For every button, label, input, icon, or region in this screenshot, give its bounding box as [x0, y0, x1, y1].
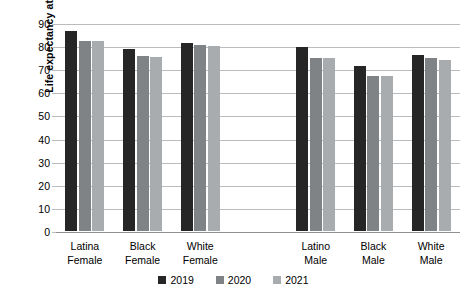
- x-axis-label-line: White: [402, 240, 460, 254]
- y-tick-mark-20: [52, 186, 56, 187]
- y-tick-label-90: 90: [38, 18, 50, 30]
- bar-2021-latino-male[interactable]: [323, 58, 335, 231]
- bar-group: [354, 24, 393, 232]
- gridline-90: [56, 24, 460, 25]
- gridline-40: [56, 140, 460, 141]
- bar-group: [123, 24, 162, 232]
- gridline-60: [56, 93, 460, 94]
- x-axis-label-line: Female: [56, 254, 114, 268]
- bar-2021-white-male[interactable]: [439, 60, 451, 231]
- bar-group: [412, 24, 451, 232]
- y-tick-mark-30: [52, 163, 56, 164]
- bar-2020-black-male[interactable]: [367, 76, 379, 231]
- legend-item-2020[interactable]: 2020: [216, 275, 251, 285]
- x-axis-label-line: Male: [345, 254, 403, 268]
- bar-group: [65, 24, 104, 232]
- bar-2021-black-female[interactable]: [150, 57, 162, 231]
- bar-group: [181, 24, 220, 232]
- y-tick-label-80: 80: [38, 41, 50, 53]
- y-tick-mark-40: [52, 140, 56, 141]
- x-axis-label-white-female: WhiteFemale: [171, 240, 229, 267]
- bar-2021-white-female[interactable]: [208, 46, 220, 231]
- legend-swatch-2021: [273, 276, 281, 284]
- bar-2019-latino-male[interactable]: [296, 47, 308, 231]
- x-axis-label-line: Female: [114, 254, 172, 268]
- bar-chart: Life expectancy at birth 010203040506070…: [0, 0, 467, 298]
- gridline-50: [56, 116, 460, 117]
- y-tick-mark-0: [52, 232, 56, 233]
- gridline-10: [56, 209, 460, 210]
- gridline-0: [56, 232, 460, 233]
- gridline-20: [56, 186, 460, 187]
- y-tick-label-60: 60: [38, 87, 50, 99]
- y-tick-label-70: 70: [38, 64, 50, 76]
- x-axis-label-line: White: [171, 240, 229, 254]
- y-tick-label-0: 0: [44, 226, 50, 238]
- x-axis-label-latino-male: LatinoMale: [287, 240, 345, 267]
- bar-2020-white-male[interactable]: [425, 58, 437, 231]
- y-tick-mark-60: [52, 93, 56, 94]
- y-tick-label-40: 40: [38, 134, 50, 146]
- bar-2019-white-male[interactable]: [412, 55, 424, 231]
- y-tick-label-10: 10: [38, 203, 50, 215]
- y-tick-mark-10: [52, 209, 56, 210]
- x-axis-label-line: Black: [114, 240, 172, 254]
- x-axis-label-line: Male: [402, 254, 460, 268]
- y-tick-mark-70: [52, 70, 56, 71]
- legend-item-2019[interactable]: 2019: [158, 275, 193, 285]
- bar-2019-black-female[interactable]: [123, 49, 135, 231]
- bar-2019-black-male[interactable]: [354, 66, 366, 231]
- bar-2019-white-female[interactable]: [181, 43, 193, 231]
- legend-swatch-2019: [158, 276, 166, 284]
- bar-group: [296, 24, 335, 232]
- bar-2019-latina-female[interactable]: [65, 31, 77, 231]
- gridline-30: [56, 163, 460, 164]
- x-axis-label-latina-female: LatinaFemale: [56, 240, 114, 267]
- legend-label-2021: 2021: [285, 275, 308, 285]
- gridline-80: [56, 47, 460, 48]
- legend-item-2021[interactable]: 2021: [273, 275, 308, 285]
- bar-2020-latina-female[interactable]: [79, 41, 91, 231]
- bar-2021-black-male[interactable]: [381, 76, 393, 231]
- y-tick-label-30: 30: [38, 157, 50, 169]
- bar-2020-black-female[interactable]: [137, 56, 149, 231]
- y-tick-label-50: 50: [38, 110, 50, 122]
- bar-2021-latina-female[interactable]: [92, 41, 104, 231]
- y-tick-mark-50: [52, 116, 56, 117]
- plot-area: 0102030405060708090: [56, 24, 460, 232]
- y-tick-label-20: 20: [38, 180, 50, 192]
- chart-legend: 201920202021: [0, 275, 467, 285]
- legend-label-2020: 2020: [228, 275, 251, 285]
- x-axis-label-line: Male: [287, 254, 345, 268]
- bar-2020-latino-male[interactable]: [310, 58, 322, 231]
- legend-label-2019: 2019: [170, 275, 193, 285]
- x-axis-label-white-male: WhiteMale: [402, 240, 460, 267]
- x-axis-label-line: Latina: [56, 240, 114, 254]
- x-axis-label-line: Female: [171, 254, 229, 268]
- x-axis-label-line: Black: [345, 240, 403, 254]
- x-axis-label-black-female: BlackFemale: [114, 240, 172, 267]
- legend-swatch-2020: [216, 276, 224, 284]
- x-axis-label-line: Latino: [287, 240, 345, 254]
- y-tick-mark-80: [52, 47, 56, 48]
- gridline-70: [56, 70, 460, 71]
- x-axis-label-black-male: BlackMale: [345, 240, 403, 267]
- bar-2020-white-female[interactable]: [194, 45, 206, 231]
- y-tick-mark-90: [52, 24, 56, 25]
